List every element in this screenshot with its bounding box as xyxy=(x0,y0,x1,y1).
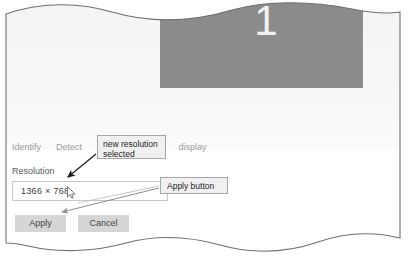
callout-apply-text: Apply button xyxy=(167,181,221,191)
resolution-label: Resolution xyxy=(12,166,55,176)
callout-new-resolution-selected: new resolution selected xyxy=(97,135,166,159)
mouse-cursor-icon xyxy=(67,186,76,199)
detect-link[interactable]: Detect xyxy=(56,142,82,152)
identify-link[interactable]: Identify xyxy=(12,142,41,152)
figure-screenshot: 1 Identify Detect C display Resolution 1… xyxy=(0,0,410,261)
display-number-label: 1 xyxy=(246,0,286,42)
callout-line-1: new resolution xyxy=(103,139,160,149)
cancel-button[interactable]: Cancel xyxy=(78,215,129,232)
resolution-dropdown[interactable]: 1366 × 768 xyxy=(12,181,168,201)
callout-apply-button: Apply button xyxy=(160,177,228,194)
resolution-selected-value: 1366 × 768 xyxy=(21,186,69,196)
apply-button[interactable]: Apply xyxy=(15,215,66,232)
display-preview-monitor[interactable]: 1 xyxy=(160,0,363,88)
callout-line-2: selected xyxy=(103,149,160,159)
page-surface: 1 Identify Detect C display Resolution 1… xyxy=(0,0,410,261)
wireless-display-link-truncated[interactable]: display xyxy=(179,142,207,152)
